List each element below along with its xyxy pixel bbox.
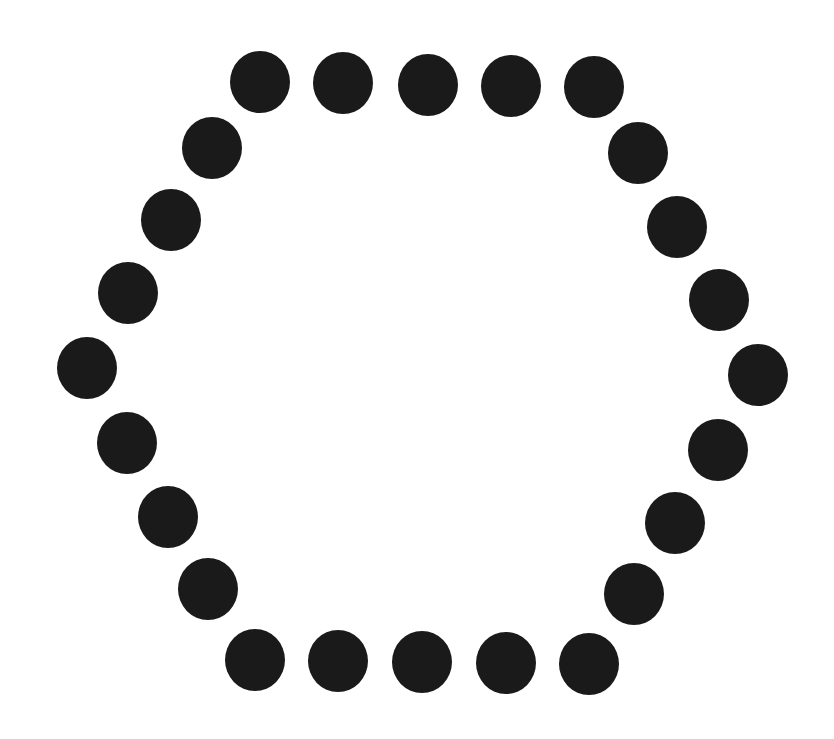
- dot-upper-left: [141, 189, 201, 251]
- dot-lower-right: [645, 492, 705, 554]
- dot-lower-left: [178, 558, 238, 620]
- dot-lower-right: [604, 563, 664, 625]
- dot-bottom: [559, 633, 619, 695]
- dot-bottom: [476, 632, 536, 694]
- dot-upper-right: [689, 269, 749, 331]
- dot-top: [313, 52, 373, 114]
- dot-lower-left: [97, 412, 157, 474]
- dot-upper-left: [98, 262, 158, 324]
- dot-upper-left: [182, 117, 242, 179]
- dot-top: [230, 51, 290, 113]
- dot-bottom: [308, 630, 368, 692]
- dot-top: [481, 55, 541, 117]
- dot-upper-right: [647, 196, 707, 258]
- dot-top: [564, 56, 624, 118]
- dot-upper-right: [608, 122, 668, 184]
- dot-left-vertex: [57, 337, 117, 399]
- dot-bottom: [392, 631, 452, 693]
- dot-lower-left: [138, 486, 198, 548]
- dot-right-vertex: [728, 344, 788, 406]
- dot-bottom: [225, 629, 285, 691]
- dot-top: [398, 54, 458, 116]
- dot-lower-right: [688, 419, 748, 481]
- dot-hexagon-diagram: [0, 0, 834, 739]
